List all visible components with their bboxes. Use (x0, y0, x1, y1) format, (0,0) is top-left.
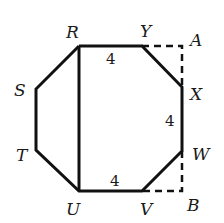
vertex-label-U: U (66, 199, 81, 219)
vertex-label-V: V (140, 199, 154, 219)
vertex-label-Y: Y (140, 21, 153, 41)
length-label-XW: 4 (165, 112, 175, 130)
length-label-UV: 4 (110, 172, 120, 190)
length-label-RY: 4 (106, 50, 116, 68)
vertex-label-T: T (16, 145, 29, 165)
octagon-diagram: R S T U V W X Y A B 4 4 4 (0, 0, 224, 223)
vertex-label-R: R (65, 22, 79, 42)
vertex-label-B: B (186, 195, 200, 215)
vertex-label-W: W (192, 144, 211, 164)
vertex-label-A: A (188, 30, 202, 50)
vertex-label-S: S (14, 80, 26, 100)
vertex-label-X: X (188, 84, 203, 104)
